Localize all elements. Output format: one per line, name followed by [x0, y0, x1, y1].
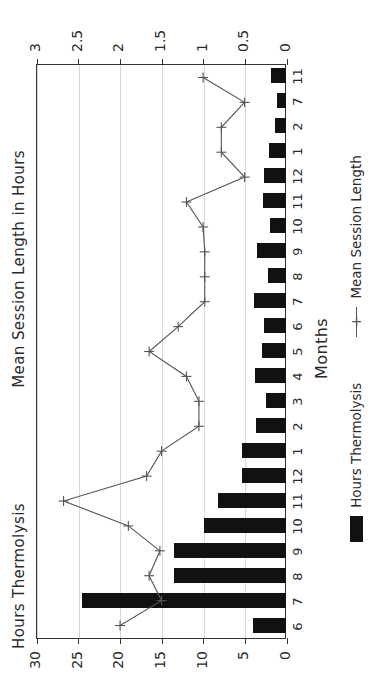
- left-tick: [162, 638, 163, 644]
- plus-marker: [181, 197, 191, 207]
- right-tick-label: 1.5: [152, 30, 168, 52]
- legend-item-bars: Hours Thermolysis: [348, 383, 364, 542]
- plus-marker: [194, 421, 204, 431]
- left-tick: [120, 638, 121, 644]
- plus-marker: [194, 396, 204, 406]
- right-axis-title: Mean Session Length in Hours: [10, 150, 28, 388]
- plus-marker: [200, 272, 210, 282]
- plus-marker: [123, 521, 133, 531]
- line-series: [37, 65, 286, 638]
- category-label: 6: [290, 322, 305, 330]
- right-tick-label: 0.5: [235, 30, 251, 52]
- legend-label-line: Mean Session Length: [348, 155, 364, 298]
- plus-marker: [157, 446, 167, 456]
- plus-marker: [181, 371, 191, 381]
- left-tick: [245, 638, 246, 644]
- category-label: 8: [290, 272, 305, 280]
- category-label: 12: [290, 468, 305, 485]
- category-label: 2: [290, 122, 305, 130]
- category-label: 7: [290, 597, 305, 605]
- x-axis-title: Months: [312, 0, 331, 697]
- right-tick: [287, 59, 288, 65]
- chart-legend: Hours Thermolysis Mean Session Length: [348, 0, 364, 697]
- plus-marker: [198, 72, 208, 82]
- plus-marker: [144, 571, 154, 581]
- category-label: 11: [290, 493, 305, 510]
- plus-marker: [155, 546, 165, 556]
- left-tick-label: 30: [27, 651, 43, 669]
- plot-area: [36, 64, 286, 639]
- plus-marker: [157, 596, 167, 606]
- category-label: 5: [290, 347, 305, 355]
- plus-marker: [115, 621, 125, 631]
- category-label: 12: [290, 168, 305, 185]
- left-tick: [37, 638, 38, 644]
- bar-swatch-icon: [350, 516, 363, 542]
- left-tick-label: 25: [69, 651, 85, 669]
- right-tick-label: 2: [110, 43, 126, 52]
- category-label: 3: [290, 397, 305, 405]
- line-marker-icon: [350, 307, 362, 337]
- left-tick-label: 10: [194, 651, 210, 669]
- category-label: 1: [290, 447, 305, 455]
- left-tick-label: 15: [152, 651, 168, 669]
- legend-item-line: Mean Session Length: [348, 155, 364, 336]
- left-axis-title: Hours Thermolysis: [10, 503, 28, 649]
- category-label: 10: [290, 218, 305, 235]
- plus-marker: [200, 247, 210, 257]
- legend-label-bars: Hours Thermolysis: [348, 383, 364, 508]
- category-label: 11: [290, 193, 305, 210]
- category-label: 7: [290, 297, 305, 305]
- category-labels: 678910111212345678910111212711: [290, 64, 314, 639]
- category-label: 9: [290, 247, 305, 255]
- plus-marker: [142, 471, 152, 481]
- category-label: 1: [290, 147, 305, 155]
- left-tick-label: 5: [235, 651, 251, 660]
- right-tick-label: 2.5: [69, 30, 85, 52]
- right-tick-label: 3: [27, 43, 43, 52]
- left-tick: [287, 638, 288, 644]
- plus-marker: [59, 496, 69, 506]
- category-label: 10: [290, 518, 305, 535]
- right-tick-label: 1: [194, 43, 210, 52]
- chart-stage: Hours Thermolysis Mean Session Length in…: [0, 0, 386, 697]
- category-label: 8: [290, 572, 305, 580]
- category-label: 4: [290, 372, 305, 380]
- left-tick-label: 0: [277, 651, 293, 660]
- right-tick-label: 0: [277, 43, 293, 52]
- category-label: 11: [290, 68, 305, 85]
- left-tick-label: 20: [110, 651, 126, 669]
- category-label: 6: [290, 622, 305, 630]
- left-tick: [203, 638, 204, 644]
- plus-marker: [198, 222, 208, 232]
- category-label: 9: [290, 547, 305, 555]
- category-label: 2: [290, 422, 305, 430]
- left-tick: [78, 638, 79, 644]
- combo-chart-figure: Hours Thermolysis Mean Session Length in…: [0, 0, 386, 697]
- category-label: 7: [290, 97, 305, 105]
